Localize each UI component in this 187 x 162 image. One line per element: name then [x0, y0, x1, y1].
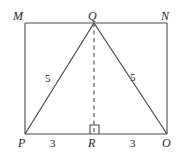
segment-PQ — [25, 23, 94, 134]
vertex-label-n: N — [161, 10, 169, 22]
vertex-label-m: M — [13, 10, 23, 22]
geometry-figure: M Q N P R O 5 5 3 3 — [0, 0, 187, 162]
vertex-label-q: Q — [88, 10, 97, 22]
measure-label-base-right: 3 — [130, 138, 136, 149]
vertex-label-o: O — [162, 137, 171, 149]
measure-label-side-left: 5 — [45, 73, 51, 84]
vertex-label-p: P — [18, 137, 25, 149]
vertex-label-r: R — [88, 137, 95, 149]
measure-label-base-left: 3 — [50, 138, 56, 149]
measure-label-side-right: 5 — [130, 72, 136, 83]
